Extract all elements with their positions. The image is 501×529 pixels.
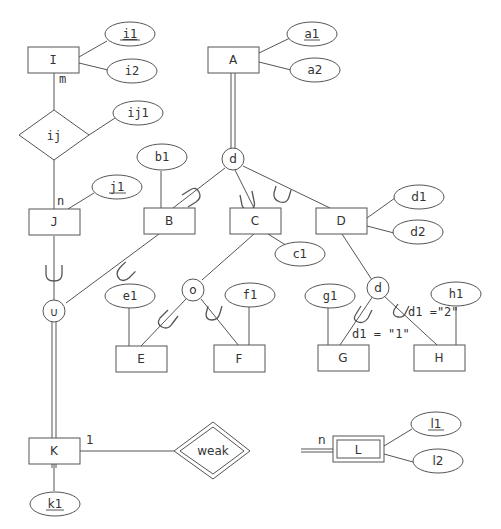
attribute-d1[interactable]: d1 — [394, 185, 444, 209]
attribute-k1-key[interactable]: k1 — [30, 492, 80, 516]
edge-L-l1 — [384, 429, 412, 446]
attribute-c1[interactable]: c1 — [275, 242, 325, 266]
edge-D-d2 — [367, 226, 394, 233]
entity-H-label: H — [434, 351, 443, 365]
union-circle: ∪ — [43, 300, 65, 322]
cardinality-I-ij: m — [59, 72, 66, 86]
entity-C[interactable]: C — [230, 208, 281, 234]
disjoint-circle-D: d — [367, 277, 389, 299]
edge-o-E — [141, 299, 186, 346]
predicate-G: d1 = "1" — [352, 327, 410, 341]
edge-d-C — [235, 170, 254, 208]
predicate-H: d1 ="2" — [408, 305, 459, 319]
entity-F[interactable]: F — [214, 345, 265, 372]
attribute-j1-key[interactable]: j1 — [92, 175, 142, 199]
entity-F-label: F — [236, 352, 243, 366]
entity-C-label: C — [251, 214, 259, 228]
relationship-ij[interactable]: ij — [19, 110, 89, 160]
entity-G[interactable]: G — [318, 345, 369, 371]
entity-J-label: J — [50, 215, 57, 229]
svg-text:k1: k1 — [48, 497, 63, 511]
entity-B-label: B — [165, 214, 173, 228]
attribute-d2[interactable]: d2 — [393, 220, 443, 244]
relationship-ij-label: ij — [47, 129, 61, 143]
svg-text:l1: l1 — [431, 417, 442, 431]
attribute-ij1[interactable]: ij1 — [113, 101, 163, 125]
entity-E[interactable]: E — [116, 346, 167, 372]
attribute-f1[interactable]: f1 — [225, 283, 275, 307]
svg-text:d: d — [229, 152, 237, 166]
attribute-e1[interactable]: e1 — [105, 284, 155, 308]
attribute-a2[interactable]: a2 — [290, 58, 340, 82]
svg-text:a2: a2 — [308, 63, 323, 77]
er-diagram: I A J B C D E F G H K L — [0, 0, 501, 529]
edge-L-l2 — [384, 454, 413, 462]
attribute-l2[interactable]: l2 — [413, 449, 463, 473]
edge-J-j1 — [68, 193, 94, 209]
edge-D-d2circle — [342, 234, 372, 280]
edge-A-a1 — [259, 38, 290, 53]
attribute-g1[interactable]: g1 — [305, 284, 355, 308]
svg-text:g1: g1 — [323, 289, 337, 303]
svg-text:d: d — [374, 281, 382, 295]
entity-I-label: I — [49, 53, 56, 67]
attribute-a1-key[interactable]: a1 — [287, 22, 337, 46]
edge-o-F — [201, 299, 239, 346]
subset-d-B-icon — [182, 188, 200, 207]
entity-B[interactable]: B — [144, 208, 195, 234]
weak-entity-L[interactable]: L — [333, 436, 384, 462]
relationship-weak-label: weak — [197, 444, 229, 458]
attribute-b1[interactable]: b1 — [137, 144, 187, 170]
edge-I-i1 — [79, 41, 107, 57]
edge-ij-ij1 — [89, 118, 115, 135]
svg-text:c1: c1 — [293, 247, 307, 261]
entity-E-label: E — [137, 352, 145, 366]
attribute-l1-key[interactable]: l1 — [411, 412, 461, 436]
edge-C-o — [202, 234, 254, 280]
edge-I-i2 — [79, 63, 108, 70]
svg-text:ij1: ij1 — [127, 106, 149, 120]
svg-text:l2: l2 — [433, 454, 444, 468]
svg-text:i2: i2 — [125, 64, 139, 78]
entity-G-label: G — [338, 351, 347, 365]
edge-d-B — [173, 168, 225, 208]
disjoint-circle-A: d — [222, 148, 244, 170]
cardinality-K-weak: 1 — [86, 433, 94, 447]
entity-A[interactable]: A — [208, 47, 259, 73]
cardinality-L-weak: n — [318, 433, 326, 447]
attribute-h1[interactable]: h1 — [431, 282, 481, 306]
entity-D[interactable]: D — [316, 208, 367, 234]
cardinality-J-ij: n — [57, 194, 64, 208]
svg-text:e1: e1 — [123, 289, 137, 303]
entity-I[interactable]: I — [28, 47, 79, 73]
entity-A-label: A — [229, 53, 238, 67]
svg-text:o: o — [189, 283, 196, 297]
entity-K-label: K — [50, 444, 59, 458]
entity-H[interactable]: H — [414, 345, 465, 371]
svg-text:d2: d2 — [410, 225, 425, 239]
svg-text:d1: d1 — [411, 190, 426, 204]
svg-text:a1: a1 — [305, 27, 320, 41]
attribute-i1-key[interactable]: i1 — [105, 22, 155, 46]
svg-text:j1: j1 — [110, 180, 124, 194]
svg-text:h1: h1 — [449, 287, 463, 301]
entity-J[interactable]: J — [29, 209, 80, 235]
edge-D-d1 — [367, 198, 395, 218]
svg-text:i1: i1 — [123, 27, 137, 41]
entity-D-label: D — [336, 214, 345, 228]
svg-text:b1: b1 — [155, 150, 169, 164]
edge-A-a2 — [259, 62, 291, 70]
overlap-circle-C: o — [182, 279, 204, 301]
entity-L-label: L — [355, 443, 362, 457]
attribute-i2[interactable]: i2 — [107, 59, 157, 83]
relationship-weak[interactable]: weak — [174, 422, 250, 479]
svg-text:∪: ∪ — [50, 305, 59, 319]
svg-text:f1: f1 — [243, 288, 257, 302]
subset-d-H-icon — [394, 304, 410, 317]
entity-K[interactable]: K — [29, 438, 80, 464]
